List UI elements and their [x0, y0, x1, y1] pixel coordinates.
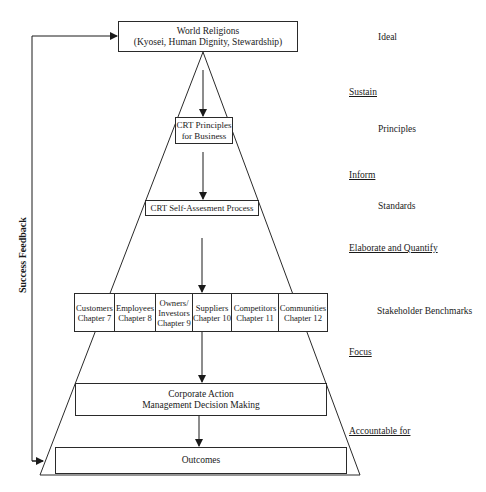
stakeholder-name: Employees	[116, 303, 154, 313]
level-ideal: Ideal	[378, 32, 397, 42]
stakeholder-name: Communities	[280, 303, 326, 313]
stakeholder-communities: Communities Chapter 12	[279, 294, 327, 331]
corporate-action-box: Corporate Action Management Decision Mak…	[75, 383, 327, 416]
stakeholder-chapter: Chapter 7	[78, 313, 112, 323]
transition-sustain: Sustain	[349, 87, 377, 97]
transition-inform: Inform	[349, 170, 375, 180]
stakeholder-suppliers: Suppliers Chapter 10	[193, 294, 232, 331]
level-principles: Principles	[378, 124, 416, 134]
crt-self-assessment-box: CRT Self-Assesment Process	[145, 200, 259, 216]
stakeholder-chapter: Chapter 12	[284, 313, 322, 323]
world-religions-box: World Religions (Kyosei, Human Dignity, …	[118, 21, 298, 52]
transition-accountable: Accountable for	[349, 426, 410, 436]
stakeholder-name: Competitors	[234, 303, 277, 313]
stakeholder-name: Suppliers	[196, 303, 228, 313]
stakeholder-customers: Customers Chapter 7	[75, 294, 115, 331]
stakeholder-chapter: Chapter 11	[236, 313, 274, 323]
success-feedback-label: Success Feedback	[17, 217, 28, 293]
outcomes-box: Outcomes	[55, 447, 347, 474]
outcomes-label: Outcomes	[182, 455, 221, 466]
corporate-action-line1: Corporate Action	[168, 389, 234, 400]
stakeholder-row: Customers Chapter 7 Employees Chapter 8 …	[74, 293, 328, 332]
stakeholder-owners-investors: Owners/ Investors Chapter 9	[156, 294, 193, 331]
level-stakeholder-benchmarks: Stakeholder Benchmarks	[377, 306, 472, 316]
stakeholder-chapter: Chapter 9	[157, 318, 191, 328]
stakeholder-chapter: Chapter 10	[193, 313, 231, 323]
stakeholder-employees: Employees Chapter 8	[115, 294, 156, 331]
world-religions-values: (Kyosei, Human Dignity, Stewardship)	[134, 37, 282, 48]
stakeholder-name: Customers	[76, 303, 113, 313]
corporate-action-line2: Management Decision Making	[142, 400, 260, 411]
crt-principles-line1: CRT Principles	[176, 120, 231, 131]
crt-principles-box: CRT Principles for Business	[175, 117, 233, 144]
stakeholder-competitors: Competitors Chapter 11	[232, 294, 279, 331]
crt-principles-line2: for Business	[182, 131, 227, 142]
stakeholder-name-prefix: Owners/	[159, 298, 188, 308]
stakeholder-chapter: Chapter 8	[118, 313, 152, 323]
crt-self-assessment-label: CRT Self-Assesment Process	[151, 203, 254, 214]
stakeholder-name: Investors	[158, 308, 190, 318]
transition-elaborate: Elaborate and Quantify	[349, 243, 438, 253]
level-standards: Standards	[378, 201, 415, 211]
transition-focus: Focus	[349, 347, 372, 357]
world-religions-title: World Religions	[177, 26, 239, 37]
